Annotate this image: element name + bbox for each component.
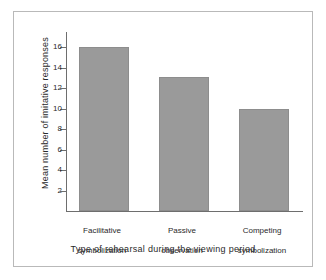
plot-area: 2 4 6 8 10 12 14 16	[66, 32, 303, 211]
y-axis-title: Mean number of imitative responses	[40, 13, 50, 213]
bar-competing-symbolization[interactable]	[239, 109, 289, 211]
x-category-label-2: Competing symbolization	[203, 216, 321, 266]
y-tick-label: 16	[53, 41, 62, 52]
y-tick-label: 2	[58, 185, 62, 196]
x-axis-title: Type of rehearsal during the viewing per…	[13, 244, 313, 254]
y-tick-label: 10	[53, 103, 62, 114]
y-tick-label: 6	[58, 144, 62, 155]
bar-facilitative-symbolization[interactable]	[79, 47, 129, 211]
y-tick-label: 8	[58, 123, 62, 134]
y-tick-label: 14	[53, 62, 62, 73]
x-category-line-1: Competing	[203, 226, 321, 236]
bar-passive-observation[interactable]	[159, 77, 209, 211]
x-axis-line	[66, 211, 303, 212]
y-axis-line	[66, 32, 67, 211]
y-tick-label: 4	[58, 164, 62, 175]
figure-frame: 2 4 6 8 10 12 14 16	[13, 11, 313, 267]
y-tick-label: 12	[53, 82, 62, 93]
